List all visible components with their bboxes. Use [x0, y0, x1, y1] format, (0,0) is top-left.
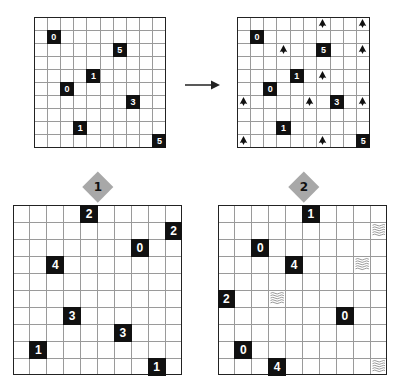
- grid-line: [219, 307, 386, 308]
- grid-line: [219, 290, 386, 291]
- clue-cell: 4: [268, 358, 286, 376]
- grid-line: [238, 134, 369, 135]
- ship-icon: [356, 95, 369, 108]
- example-puzzle-grid: 0510315: [34, 17, 166, 148]
- grid-line: [14, 290, 181, 291]
- clue-cell: 0: [47, 30, 61, 44]
- clue-cell: 3: [114, 324, 132, 342]
- clue-cell: 5: [113, 43, 127, 57]
- clue-cell: 1: [290, 69, 304, 83]
- puzzle-grid-1: 22043311: [13, 205, 182, 375]
- water-icon: [268, 290, 285, 307]
- grid-line: [35, 134, 165, 135]
- puzzle-number: 2: [300, 180, 308, 194]
- water-icon: [370, 358, 387, 375]
- grid-line: [219, 239, 386, 240]
- water-icon: [370, 222, 387, 239]
- ship-icon: [356, 17, 369, 30]
- puzzle-number-badge: 2: [289, 172, 319, 202]
- clue-cell: 1: [73, 121, 87, 135]
- clue-cell: 4: [46, 256, 64, 274]
- clue-cell: 0: [250, 30, 264, 44]
- clue-cell: 5: [356, 134, 370, 148]
- clue-cell: 0: [263, 82, 277, 96]
- grid-line: [14, 239, 181, 240]
- ship-icon: [316, 134, 329, 147]
- grid-line: [238, 56, 369, 57]
- grid-line: [14, 324, 181, 325]
- grid-line: [35, 108, 165, 109]
- clue-cell: 0: [131, 239, 149, 257]
- clue-cell: 3: [330, 95, 344, 109]
- clue-cell: 2: [218, 290, 236, 308]
- clue-cell: 0: [234, 341, 252, 359]
- grid-line: [35, 95, 165, 96]
- example-solution-grid: 0510315: [237, 17, 370, 148]
- ship-icon: [316, 17, 329, 30]
- grid-line: [238, 108, 369, 109]
- water-icon: [353, 256, 370, 273]
- ship-icon: [303, 95, 316, 108]
- clue-cell: 0: [60, 82, 74, 96]
- ship-icon: [276, 43, 289, 56]
- clue-cell: 1: [148, 358, 166, 376]
- ship-icon: [356, 43, 369, 56]
- puzzle-number: 1: [94, 180, 102, 194]
- grid-line: [14, 307, 181, 308]
- grid-line: [14, 273, 181, 274]
- clue-cell: 1: [86, 69, 100, 83]
- puzzle-grid-2: 1042004: [218, 205, 387, 375]
- grid-line: [35, 56, 165, 57]
- clue-cell: 1: [302, 205, 320, 223]
- ship-icon: [316, 69, 329, 82]
- clue-cell: 0: [251, 239, 269, 257]
- clue-cell: 2: [165, 222, 183, 240]
- clue-cell: 0: [336, 307, 354, 325]
- ship-icon: [237, 95, 250, 108]
- clue-cell: 1: [276, 121, 290, 135]
- clue-cell: 5: [152, 134, 166, 148]
- right-arrow-icon: [185, 77, 221, 95]
- puzzle-number-badge: 1: [83, 172, 113, 202]
- clue-cell: 1: [29, 341, 47, 359]
- ship-icon: [237, 134, 250, 147]
- clue-cell: 5: [316, 43, 330, 57]
- clue-cell: 3: [126, 95, 140, 109]
- clue-cell: 2: [80, 205, 98, 223]
- clue-cell: 4: [285, 256, 303, 274]
- clue-cell: 3: [63, 307, 81, 325]
- grid-line: [14, 256, 181, 257]
- grid-line: [35, 121, 165, 122]
- grid-line: [238, 121, 369, 122]
- grid-line: [219, 324, 386, 325]
